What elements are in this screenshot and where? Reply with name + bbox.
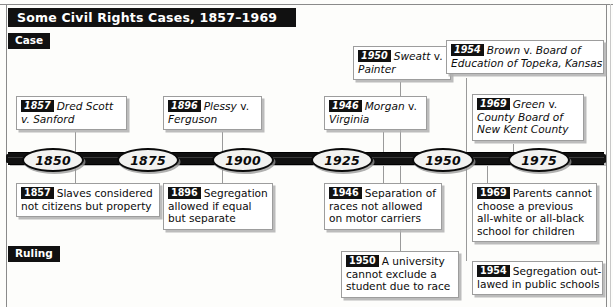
connector-line-ruling-1969 <box>487 166 488 183</box>
case-box-1946[interactable]: 1946Morgan v. Virginia <box>324 96 427 130</box>
case-year-1896: 1896 <box>168 100 201 112</box>
ruling-box-1969[interactable]: 1969Parents cannot choose a previous all… <box>472 183 597 242</box>
timeline-year-1950: 1950 <box>412 148 474 172</box>
case-name-1969-v: v. <box>548 98 557 110</box>
timeline-year-1875: 1875 <box>117 148 179 172</box>
case-name-1946-line2: Virginia <box>329 113 421 126</box>
case-name-1950-v: v. <box>434 50 443 62</box>
case-name-1896-line1: Plessy <box>204 100 237 112</box>
ruling-text-1857-line1: Slaves considered <box>57 187 153 199</box>
ruling-text-1896-line1: Segregation <box>204 187 268 199</box>
case-name-1969-line2: County Board of <box>477 111 578 124</box>
case-year-1954: 1954 <box>451 44 484 56</box>
case-name-1969-line1: Green <box>513 98 545 110</box>
ruling-box-1896[interactable]: 1896Segregation allowed if equal but sep… <box>163 183 273 230</box>
ruling-year-1857: 1857 <box>21 187 54 199</box>
frame-right-rule <box>606 4 607 307</box>
ruling-year-1946: 1946 <box>329 187 362 199</box>
timeline-cap-right <box>603 154 606 163</box>
page-title: Some Civil Rights Cases, 1857–1969 <box>8 10 277 25</box>
timeline-year-1975: 1975 <box>508 148 570 172</box>
ruling-text-1946-line3: on motor carriers <box>329 212 436 225</box>
case-box-1950[interactable]: 1950Sweatt v. Painter <box>353 46 451 80</box>
ruling-text-1896-line3: but separate <box>168 212 267 225</box>
connector-line-ruling-1857 <box>75 166 76 183</box>
case-year-1857: 1857 <box>21 100 54 112</box>
ruling-year-1969: 1969 <box>477 187 510 199</box>
connector-line-case-1946 <box>383 132 384 154</box>
case-box-1969[interactable]: 1969Green v. County Board of New Kent Co… <box>472 94 584 141</box>
case-box-1896[interactable]: 1896Plessy v. Ferguson <box>163 96 262 130</box>
case-name-1954-line1: Brown <box>487 44 520 56</box>
ruling-box-1857[interactable]: 1857Slaves considered not citizens but p… <box>16 183 160 217</box>
ruling-text-1950-line1: A university <box>382 255 445 267</box>
timeline-cap-left <box>6 154 9 163</box>
case-name-1950-line1: Sweatt <box>394 50 431 62</box>
case-name-1954-v: v. <box>524 44 533 56</box>
timeline-year-1925: 1925 <box>311 148 373 172</box>
case-name-1857-line2: v. Sanford <box>21 113 121 126</box>
timeline-figure: Some Civil Rights Cases, 1857–1969 Case … <box>0 0 613 307</box>
connector-line-ruling-1954 <box>466 166 467 261</box>
ruling-box-1954[interactable]: 1954Segregation out- lawed in public sch… <box>472 261 603 295</box>
ruling-text-1969-line4: school for children <box>477 225 591 238</box>
case-name-1954-line2: Education of Topeka, Kansas <box>451 57 598 70</box>
case-name-1896-line2: Ferguson <box>168 113 256 126</box>
section-label-ruling: Ruling <box>8 246 60 262</box>
timeline-year-1850: 1850 <box>22 148 84 172</box>
ruling-box-1946[interactable]: 1946Separation of races not allowed on m… <box>324 183 442 230</box>
frame-right-outer-rule <box>610 4 611 307</box>
ruling-text-1954-line1: Segregation out- <box>513 265 602 277</box>
ruling-text-1896-line2: allowed if equal <box>168 200 267 213</box>
case-year-1946: 1946 <box>329 100 362 112</box>
case-box-1954[interactable]: 1954Brown v. Board of Education of Topek… <box>446 40 604 74</box>
ruling-year-1950: 1950 <box>346 255 379 267</box>
ruling-year-1896: 1896 <box>168 187 201 199</box>
ruling-text-1946-line2: races not allowed <box>329 200 436 213</box>
case-name-1896-v: v. <box>240 100 249 112</box>
case-year-1969: 1969 <box>477 98 510 110</box>
ruling-text-1857-line2: not citizens but property <box>21 200 154 213</box>
case-name-1954-line1c: Board of <box>536 44 581 56</box>
frame-top-rule <box>0 4 613 5</box>
case-name-1946-v: v. <box>408 100 417 112</box>
ruling-text-1946-line1: Separation of <box>365 187 436 199</box>
ruling-text-1969-line1: Parents cannot <box>513 187 592 199</box>
ruling-text-1950-line2: cannot exclude a <box>346 268 453 281</box>
ruling-text-1969-line2: choose a previous <box>477 200 591 213</box>
case-name-1857-line1: Dred Scott <box>57 100 113 112</box>
figure-title-banner: Some Civil Rights Cases, 1857–1969 <box>8 8 296 27</box>
ruling-box-1950[interactable]: 1950A university cannot exclude a studen… <box>341 251 459 298</box>
case-year-1950: 1950 <box>358 50 391 62</box>
ruling-text-1954-line2: lawed in public schools <box>477 278 597 291</box>
ruling-year-1954: 1954 <box>477 265 510 277</box>
ruling-text-1969-line3: all-white or all-black <box>477 212 591 225</box>
case-name-1969-line3: New Kent County <box>477 123 578 136</box>
case-name-1946-line1: Morgan <box>365 100 405 112</box>
ruling-text-1950-line3: student due to race <box>346 280 453 293</box>
section-label-case: Case <box>8 33 50 49</box>
case-name-1950-line2: Painter <box>358 63 445 76</box>
case-box-1857[interactable]: 1857Dred Scott v. Sanford <box>16 96 127 130</box>
connector-line-ruling-1946 <box>383 166 384 183</box>
connector-line-case-1954 <box>466 78 467 154</box>
timeline-year-1900: 1900 <box>212 148 274 172</box>
